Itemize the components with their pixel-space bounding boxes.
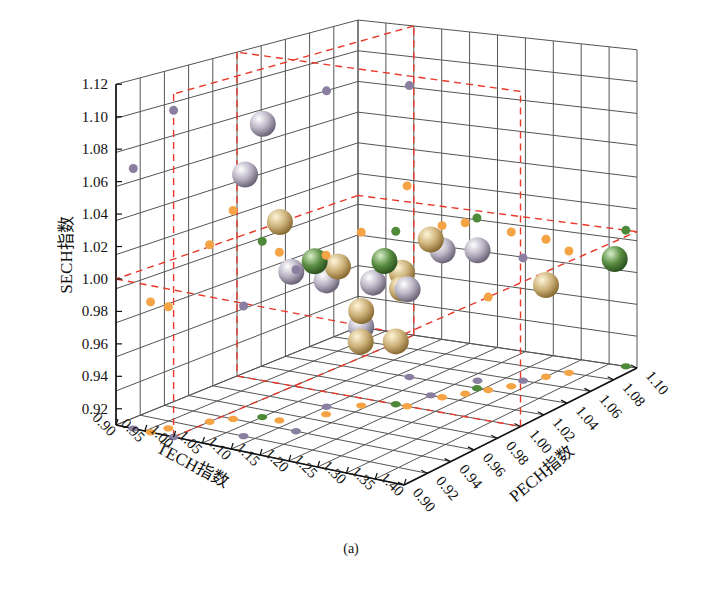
- svg-text:1.10: 1.10: [82, 109, 108, 125]
- svg-text:1.15: 1.15: [233, 439, 263, 469]
- floor-projection-point: [426, 392, 436, 398]
- svg-text:1.00: 1.00: [82, 271, 108, 287]
- data-point-purple: [519, 253, 528, 262]
- floor-projection-point: [274, 417, 284, 423]
- floor-projection-point: [228, 416, 238, 422]
- data-point-orange: [146, 297, 155, 306]
- svg-text:0.94: 0.94: [82, 368, 109, 384]
- data-point-green: [391, 227, 400, 236]
- svg-text:1.25: 1.25: [291, 451, 321, 481]
- svg-text:0.98: 0.98: [82, 303, 108, 319]
- reference-planes: [116, 26, 637, 437]
- floor-projection-point: [437, 394, 447, 400]
- data-point-orange: [322, 251, 331, 260]
- svg-text:1.08: 1.08: [619, 379, 648, 409]
- svg-text:1.02: 1.02: [82, 239, 108, 255]
- data-point-orange: [357, 228, 366, 237]
- data-point-large-silver: [250, 111, 276, 137]
- data-point-orange: [164, 302, 173, 311]
- z-axis-title: SECH指数: [57, 216, 76, 293]
- svg-text:1.04: 1.04: [82, 206, 109, 222]
- svg-text:0.95: 0.95: [118, 415, 148, 445]
- svg-text:1.12: 1.12: [82, 76, 108, 92]
- data-point-orange: [507, 228, 516, 237]
- svg-text:1.02: 1.02: [550, 414, 579, 444]
- svg-text:1.06: 1.06: [596, 391, 625, 422]
- floor-projection-point: [321, 411, 331, 417]
- figure-caption: (a): [343, 541, 359, 557]
- data-point-large-gold: [348, 329, 374, 355]
- data-point-large-silver: [395, 276, 421, 302]
- data-point-large-green: [602, 246, 628, 272]
- floor-projection-point: [322, 404, 332, 410]
- data-point-orange: [541, 235, 550, 244]
- data-point-large-silver: [278, 259, 304, 285]
- data-point-purple: [129, 164, 138, 173]
- data-point-purple: [169, 106, 178, 115]
- floor-projection-point: [356, 402, 366, 408]
- svg-text:1.10: 1.10: [643, 368, 672, 398]
- data-point-large-gold: [348, 298, 374, 324]
- data-point-large-gold: [383, 328, 409, 354]
- data-point-orange: [205, 240, 214, 249]
- data-point-orange: [229, 206, 238, 215]
- data-point-large-silver: [232, 161, 258, 187]
- data-point-purple: [405, 81, 414, 90]
- data-point-orange: [275, 248, 284, 257]
- floor-projection-point: [391, 401, 401, 407]
- data-point-large-green: [371, 248, 397, 274]
- floor-projection-point: [291, 428, 301, 434]
- svg-text:1.30: 1.30: [320, 457, 350, 487]
- floor-projection-point: [257, 414, 267, 420]
- data-point-large-gold: [418, 227, 444, 253]
- floor-projection-point: [404, 374, 414, 380]
- svg-text:1.00: 1.00: [526, 426, 555, 456]
- floor-projection-point: [541, 374, 551, 380]
- floor-projection-point: [473, 378, 483, 384]
- data-point-purple: [322, 86, 331, 95]
- data-point-green: [621, 226, 630, 235]
- data-point-large-silver: [465, 237, 491, 263]
- floor-projection-point: [402, 403, 412, 409]
- floor-projection-point: [472, 385, 482, 391]
- floor-projection-point: [483, 387, 493, 393]
- data-point-orange: [438, 221, 447, 230]
- svg-text:1.06: 1.06: [82, 174, 109, 190]
- floor-projection-point: [621, 363, 631, 369]
- svg-text:0.94: 0.94: [456, 461, 485, 492]
- svg-text:1.35: 1.35: [349, 463, 379, 493]
- svg-text:1.20: 1.20: [262, 445, 292, 475]
- svg-text:1.10: 1.10: [205, 433, 235, 463]
- svg-text:1.08: 1.08: [82, 141, 108, 157]
- floor-projection-point: [564, 370, 574, 376]
- svg-text:0.96: 0.96: [82, 336, 109, 352]
- floor-projection-point: [506, 383, 516, 389]
- data-point-orange: [564, 247, 573, 256]
- data-point-orange: [461, 218, 470, 227]
- data-point-large-gold: [267, 209, 293, 235]
- floor-projection-point: [205, 419, 215, 425]
- data-point-green: [472, 214, 481, 223]
- data-point-orange: [403, 181, 412, 190]
- svg-text:0.96: 0.96: [480, 450, 509, 481]
- floor-projection-point: [518, 377, 528, 383]
- data-point-purple: [239, 302, 248, 311]
- data-point-orange: [484, 293, 493, 302]
- floor-projection-point: [460, 391, 470, 397]
- scatter3d-chart: 0.920.940.960.981.001.021.041.061.081.10…: [0, 0, 702, 589]
- svg-text:0.92: 0.92: [433, 473, 462, 503]
- data-point-purple: [292, 265, 301, 274]
- svg-text:1.04: 1.04: [573, 403, 602, 434]
- data-point-large-gold: [533, 272, 559, 298]
- svg-text:0.98: 0.98: [503, 438, 532, 468]
- data-point-green: [258, 237, 267, 246]
- svg-text:0.90: 0.90: [410, 485, 439, 515]
- floor-projection-point: [239, 433, 249, 439]
